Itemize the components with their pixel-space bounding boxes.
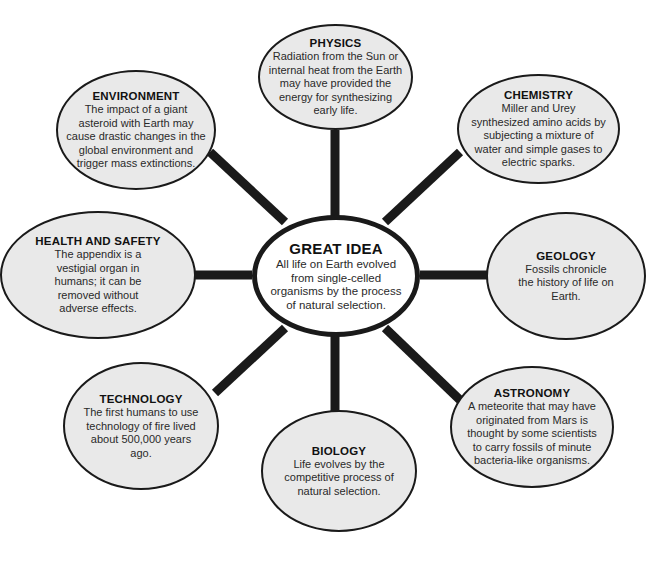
node-title: ENVIRONMENT [92,89,179,103]
node-text: Miller and Urey synthesized amino acids … [459,102,618,170]
node-title: HEALTH AND SAFETY [35,234,160,248]
node-geology: GEOLOGY Fossils chronicle the history of… [486,212,646,340]
node-text: Fossils chronicle the history of life on… [488,263,644,304]
connector-chemistry [385,152,460,222]
node-text: Radiation from the Sun or internal heat … [260,50,411,118]
node-physics: PHYSICS Radiation from the Sun or intern… [258,24,413,130]
node-technology: TECHNOLOGY The first humans to use techn… [63,362,219,490]
node-title: CHEMISTRY [504,88,573,102]
connector-astronomy [385,328,460,400]
center-title: GREAT IDEA [289,240,382,258]
node-title: ASTRONOMY [494,386,571,400]
node-great-idea: GREAT IDEA All life on Earth evolved fro… [252,215,420,337]
node-health-and-safety: HEALTH AND SAFETY The appendix is a vest… [0,211,196,339]
node-chemistry: CHEMISTRY Miller and Urey synthesized am… [457,74,620,184]
node-astronomy: ASTRONOMY A meteorite that may have orig… [450,366,614,488]
connector-technology [215,328,285,393]
node-text: The impact of a giant asteroid with Eart… [58,103,214,171]
node-title: PHYSICS [310,36,362,50]
node-title: TECHNOLOGY [99,392,182,406]
node-environment: ENVIRONMENT The impact of a giant astero… [56,70,216,190]
node-title: GEOLOGY [536,249,596,263]
node-text: The appendix is a vestigial organ in hum… [2,248,194,316]
node-text: The first humans to use technology of fi… [65,406,217,460]
node-title: BIOLOGY [312,444,366,458]
node-text: A meteorite that may have originated fro… [452,400,612,468]
node-biology: BIOLOGY Life evolves by the competitive … [261,410,417,532]
node-text: Life evolves by the competitive process … [263,458,415,499]
connector-environment [210,152,285,222]
center-text: All life on Earth evolved from single-ce… [257,258,415,312]
